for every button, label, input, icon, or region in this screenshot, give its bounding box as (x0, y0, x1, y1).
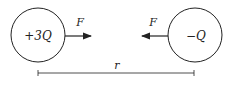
left-charge: +3Q (11, 8, 65, 62)
left-force-arrow: F (65, 16, 91, 36)
left-charge-label: +3Q (24, 29, 52, 43)
right-force-arrow: F (142, 16, 168, 36)
right-force-label: F (148, 16, 157, 29)
left-force-label: F (75, 16, 84, 29)
coulomb-force-diagram: +3Q F −Q F r (0, 0, 229, 88)
right-charge-label: −Q (186, 29, 206, 43)
distance-indicator: r (38, 59, 194, 76)
right-charge: −Q (168, 8, 222, 62)
distance-label: r (114, 59, 120, 72)
